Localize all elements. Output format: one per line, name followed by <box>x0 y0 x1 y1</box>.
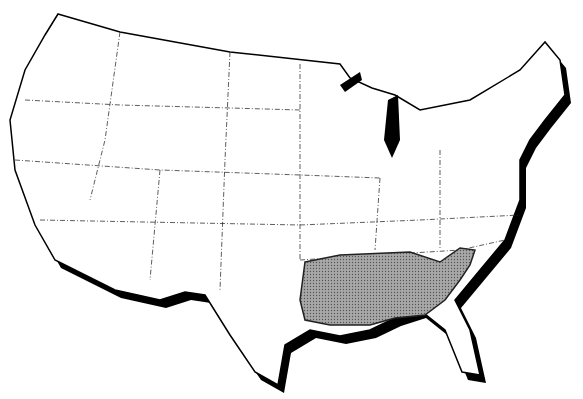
us-outline <box>10 14 565 385</box>
us-range-map <box>0 0 583 399</box>
map-svg <box>0 0 583 399</box>
